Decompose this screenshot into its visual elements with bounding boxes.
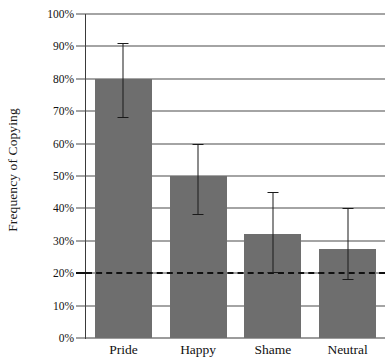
error-bar-cap-bottom	[118, 117, 129, 118]
y-tick-label: 90%	[26, 40, 74, 52]
y-axis-title: Frequency of Copying	[0, 0, 26, 340]
error-bar-cap-top	[118, 43, 129, 44]
error-bar-cap-bottom	[267, 272, 278, 273]
bar-pride	[95, 79, 152, 338]
error-bar-stem	[347, 208, 348, 279]
error-bar-cap-top	[267, 192, 278, 193]
y-tick-mark-70	[76, 111, 86, 112]
y-tick-label: 0%	[26, 332, 74, 344]
x-tick-label-neutral: Neutral	[327, 342, 367, 358]
y-tick-mark-0	[76, 338, 86, 339]
error-bar-stem	[272, 192, 273, 273]
y-axis-title-text: Frequency of Copying	[5, 108, 21, 231]
bar-chart: Frequency of Copying 0%10%20%30%40%50%60…	[0, 0, 392, 364]
y-tick-label: 20%	[26, 267, 74, 279]
y-tick-label: 100%	[26, 8, 74, 20]
y-tick-label: 70%	[26, 105, 74, 117]
error-bar-stem	[123, 43, 124, 118]
x-tick-label-pride: Pride	[109, 342, 138, 358]
error-bar-cap-bottom	[193, 214, 204, 215]
plot-area	[86, 14, 385, 338]
error-bar-shame	[263, 192, 283, 273]
error-bar-happy	[188, 144, 208, 215]
y-tick-label: 30%	[26, 235, 74, 247]
y-tick-mark-30	[76, 240, 86, 241]
error-bar-cap-bottom	[342, 279, 353, 280]
y-tick-mark-60	[76, 143, 86, 144]
y-tick-mark-100	[76, 14, 86, 15]
y-tick-mark-90	[76, 46, 86, 47]
reference-line-tick	[76, 272, 86, 274]
error-bar-cap-top	[342, 208, 353, 209]
y-tick-label: 40%	[26, 202, 74, 214]
y-tick-label: 10%	[26, 300, 74, 312]
x-axis-tick-labels: PrideHappyShameNeutral	[86, 342, 385, 364]
x-tick-label-shame: Shame	[255, 342, 292, 358]
y-tick-mark-40	[76, 208, 86, 209]
y-tick-label: 60%	[26, 138, 74, 150]
y-tick-mark-80	[76, 78, 86, 79]
error-bar-pride	[113, 43, 133, 118]
y-tick-label: 80%	[26, 73, 74, 85]
y-axis-tick-labels: 0%10%20%30%40%50%60%70%80%90%100%	[26, 0, 74, 364]
y-tick-label: 50%	[26, 170, 74, 182]
y-tick-mark-50	[76, 176, 86, 177]
error-bar-stem	[198, 144, 199, 215]
y-tick-mark-10	[76, 305, 86, 306]
x-tick-label-happy: Happy	[180, 342, 216, 358]
gridline-100	[86, 14, 385, 15]
error-bar-neutral	[338, 208, 358, 279]
error-bar-cap-top	[193, 144, 204, 145]
